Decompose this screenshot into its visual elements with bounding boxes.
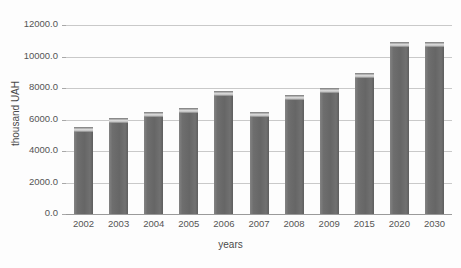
- bar: [250, 112, 269, 214]
- x-tick-label: 2006: [204, 218, 244, 229]
- bar-cap: [144, 112, 163, 117]
- y-tick-mark: [62, 214, 66, 215]
- bar-cap: [109, 118, 128, 123]
- x-tick-label: 2004: [134, 218, 174, 229]
- x-tick-label: 2009: [309, 218, 349, 229]
- x-axis-title: years: [0, 239, 461, 250]
- bar-cap: [390, 42, 409, 47]
- x-tick-label: 2002: [64, 218, 104, 229]
- x-tick-label: 2005: [169, 218, 209, 229]
- bar: [109, 118, 128, 214]
- bar-cap: [285, 95, 304, 100]
- bar-cap: [425, 42, 444, 47]
- bar: [425, 42, 444, 214]
- gridline: [66, 214, 452, 215]
- y-tick-label: 10000.0: [0, 50, 58, 61]
- bar-chart: 0.02000.04000.06000.08000.010000.012000.…: [0, 0, 461, 268]
- bar: [285, 95, 304, 214]
- bar: [320, 88, 339, 214]
- bar-cap: [74, 127, 93, 132]
- x-tick-label: 2007: [239, 218, 279, 229]
- x-tick-label: 2008: [274, 218, 314, 229]
- y-axis-title: thousand UAH: [10, 64, 21, 164]
- bar-cap: [320, 88, 339, 93]
- bar-cap: [355, 73, 374, 78]
- bar-cap: [179, 108, 198, 113]
- bar: [355, 73, 374, 214]
- bar: [144, 112, 163, 214]
- bar: [390, 42, 409, 214]
- bar: [214, 91, 233, 214]
- x-tick-label: 2030: [414, 218, 454, 229]
- bar: [74, 127, 93, 214]
- x-tick-label: 2015: [344, 218, 384, 229]
- y-tick-label: 12000.0: [0, 18, 58, 29]
- y-tick-label: 0.0: [0, 207, 58, 218]
- bar-cap: [214, 91, 233, 96]
- x-tick-label: 2020: [379, 218, 419, 229]
- plot-area: [66, 25, 452, 214]
- x-tick-label: 2003: [99, 218, 139, 229]
- bar: [179, 108, 198, 214]
- y-tick-label: 2000.0: [0, 176, 58, 187]
- bar-cap: [250, 112, 269, 117]
